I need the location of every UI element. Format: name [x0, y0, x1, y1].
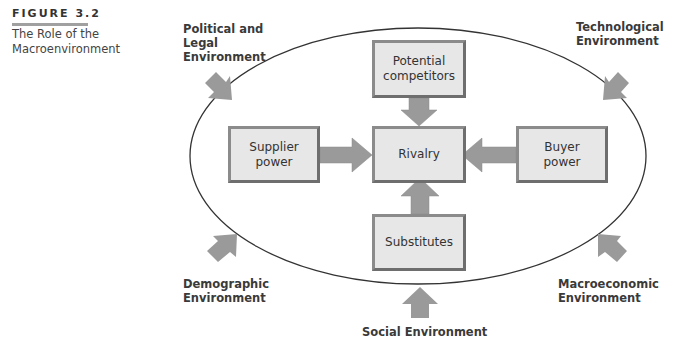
- env-macroeconomic: Macroeconomic Environment: [558, 277, 678, 305]
- arrow-technological-inward: [603, 72, 629, 100]
- box-rivalry: Rivalry: [372, 126, 466, 183]
- arrow-supplier-to-rivalry: [320, 138, 372, 172]
- env-social: Social Environment: [362, 325, 512, 339]
- env-technological: Technological Environment: [576, 20, 676, 48]
- supplier-power-label: Supplier power: [245, 140, 303, 170]
- arrow-political-inward: [205, 72, 232, 100]
- env-demographic: Demographic Environment: [183, 277, 283, 305]
- arrow-substitutes-to-rivalry: [401, 178, 439, 214]
- potential-competitors-label: Potential competitors: [381, 54, 457, 84]
- arrow-social-inward: [402, 287, 438, 318]
- env-political-legal: Political and Legal Environment: [183, 22, 298, 64]
- substitutes-label: Substitutes: [385, 235, 453, 250]
- arrow-macroeconomic-inward: [598, 234, 627, 262]
- arrow-competitors-to-rivalry: [401, 98, 437, 126]
- rivalry-label: Rivalry: [398, 147, 440, 162]
- buyer-power-label: Buyer power: [537, 140, 587, 170]
- box-potential-competitors: Potential competitors: [372, 40, 466, 98]
- arrow-demographic-inward: [207, 234, 237, 262]
- box-buyer-power: Buyer power: [516, 126, 608, 183]
- box-supplier-power: Supplier power: [228, 126, 320, 183]
- box-substitutes: Substitutes: [372, 214, 466, 271]
- arrow-buyer-to-rivalry: [462, 138, 516, 172]
